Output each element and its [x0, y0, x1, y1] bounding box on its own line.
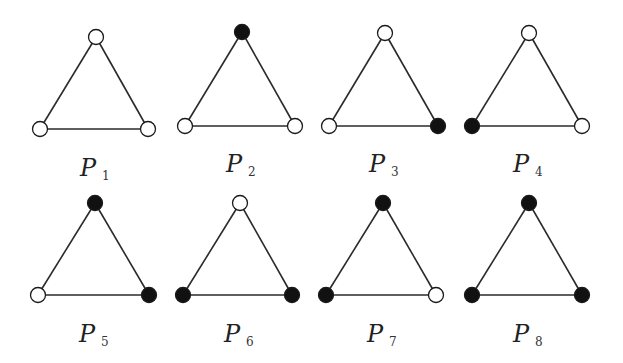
vertex-right-black — [142, 288, 157, 303]
edge-top-right — [529, 203, 582, 295]
graph-p7: P7 — [319, 196, 444, 350]
graph-label-subscript: 4 — [535, 165, 543, 179]
vertex-left-black — [176, 288, 191, 303]
graph-p8: P8 — [465, 196, 590, 350]
graph-label: P — [79, 154, 97, 182]
graph-p6: P6 — [176, 196, 300, 350]
vertex-right-white — [575, 119, 590, 134]
vertex-right-black — [431, 119, 446, 134]
edge-top-right — [95, 203, 149, 295]
vertex-top-black — [376, 196, 391, 211]
graph-label: P — [366, 320, 384, 348]
graph-p3: P3 — [322, 26, 446, 180]
graph-label: P — [512, 150, 530, 178]
edge-top-left — [326, 203, 383, 295]
vertex-left-white — [322, 119, 337, 134]
graph-label-subscript: 7 — [389, 335, 397, 349]
vertex-left-white — [33, 122, 48, 137]
edge-top-right — [240, 203, 292, 295]
edge-top-left — [472, 33, 529, 126]
graph-label-subscript: 5 — [101, 335, 109, 349]
edge-top-left — [38, 203, 95, 295]
vertex-right-black — [285, 288, 300, 303]
edge-top-left — [183, 203, 240, 295]
vertex-right-white — [288, 119, 303, 134]
edge-top-left — [329, 33, 385, 126]
vertex-right-white — [141, 122, 156, 137]
edge-top-right — [385, 33, 438, 126]
graph-label-subscript: 3 — [391, 165, 399, 179]
graph-label-subscript: 8 — [535, 335, 543, 349]
vertex-left-black — [465, 119, 480, 134]
vertex-top-white — [89, 30, 104, 45]
edge-top-left — [185, 32, 242, 126]
vertex-top-black — [88, 196, 103, 211]
graph-label: P — [225, 150, 243, 178]
graph-label: P — [368, 150, 386, 178]
graph-label: P — [223, 320, 241, 348]
graph-label-subscript: 6 — [246, 335, 254, 349]
graph-p4: P4 — [465, 26, 590, 180]
vertex-left-black — [319, 288, 334, 303]
edge-top-right — [242, 32, 295, 126]
edge-top-right — [96, 37, 148, 129]
vertex-top-white — [522, 26, 537, 41]
vertex-left-white — [178, 119, 193, 134]
edge-top-right — [529, 33, 582, 126]
vertex-left-black — [465, 288, 480, 303]
graph-label-subscript: 2 — [248, 165, 256, 179]
triangle-colorings-diagram: P1P2P3P4P5P6P7P8 — [0, 0, 623, 363]
graph-label-subscript: 1 — [102, 169, 110, 183]
vertex-right-black — [575, 288, 590, 303]
graph-p5: P5 — [31, 196, 157, 350]
vertex-top-black — [522, 196, 537, 211]
vertex-top-white — [378, 26, 393, 41]
vertex-top-black — [235, 25, 250, 40]
graph-p2: P2 — [178, 25, 303, 180]
vertex-top-white — [233, 196, 248, 211]
vertex-left-white — [31, 288, 46, 303]
graph-label: P — [78, 320, 96, 348]
graph-label: P — [512, 320, 530, 348]
edge-top-left — [40, 37, 96, 129]
edge-top-right — [383, 203, 436, 295]
edge-top-left — [472, 203, 529, 295]
vertex-right-white — [429, 288, 444, 303]
graph-p1: P1 — [33, 30, 156, 184]
